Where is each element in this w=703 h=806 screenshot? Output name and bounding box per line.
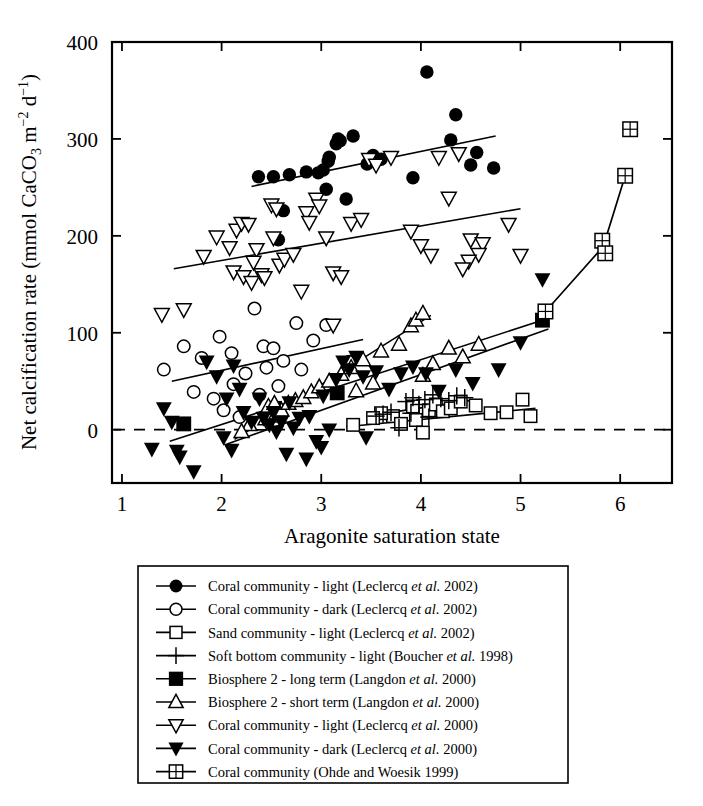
data-point — [334, 271, 349, 285]
legend-marker-open-circle — [170, 603, 182, 615]
legend-marker-open-square — [170, 626, 182, 638]
data-point — [246, 256, 261, 270]
open-circle-marker — [239, 367, 251, 379]
legend-label: Biosphere 2 - short term (Langdon et al.… — [208, 694, 479, 711]
legend-label: Coral community - dark (Leclercq et al. … — [208, 601, 477, 618]
open-circle-marker — [272, 380, 284, 392]
legend-label: Coral community - dark (Leclercq et al. … — [208, 741, 477, 758]
data-point — [154, 309, 169, 323]
open-down-triangle-marker — [455, 263, 470, 277]
data-point — [207, 392, 219, 404]
open-circle-marker — [170, 603, 182, 615]
data-point — [516, 393, 528, 405]
filled-circle-marker — [170, 580, 183, 593]
data-point — [144, 443, 160, 458]
data-point — [535, 273, 551, 288]
figure-container: 1234560100200300400Aragonite saturation … — [0, 0, 703, 806]
data-point — [339, 192, 352, 205]
filled-down-triangle-marker — [298, 453, 314, 468]
open-circle-marker — [260, 361, 272, 373]
open-square-marker — [347, 419, 359, 431]
y-tick-label: 0 — [88, 419, 99, 443]
open-down-triangle-marker — [222, 242, 237, 256]
open-circle-marker — [295, 363, 307, 375]
legend-label: Coral community - light (Leclercq et al.… — [208, 578, 478, 595]
open-square-marker — [516, 393, 528, 405]
data-point — [283, 168, 296, 181]
open-down-triangle-marker — [403, 225, 418, 239]
filled-circle-marker — [444, 133, 457, 146]
open-up-triangle-marker — [349, 383, 364, 397]
data-point — [598, 246, 613, 260]
data-point — [403, 225, 418, 239]
data-point — [449, 108, 462, 121]
data-point — [501, 218, 516, 232]
open-square-marker — [484, 407, 496, 419]
data-point — [217, 404, 229, 416]
data-point — [347, 419, 359, 431]
data-point — [513, 336, 529, 351]
data-point — [187, 386, 199, 398]
data-point — [406, 171, 419, 184]
data-point — [441, 340, 456, 354]
open-down-triangle-marker — [294, 285, 309, 299]
legend-item-3[interactable]: Soft bottom community - light (Boucher e… — [156, 647, 513, 664]
x-tick-label: 5 — [515, 492, 526, 516]
data-point — [358, 431, 374, 446]
data-point — [239, 367, 251, 379]
data-point — [484, 407, 496, 419]
data-point — [451, 148, 466, 162]
filled-circle-marker — [339, 192, 352, 205]
legend-label: Coral community - light (Leclercq et al.… — [208, 717, 478, 734]
filled-down-triangle-marker — [156, 402, 172, 417]
open-down-triangle-marker — [244, 277, 259, 291]
open-down-triangle-marker — [302, 217, 317, 231]
open-up-triangle-marker — [441, 340, 456, 354]
series-connect-line — [545, 176, 625, 312]
data-point — [423, 249, 438, 263]
y-tick-label: 200 — [67, 225, 99, 249]
filled-circle-marker — [449, 108, 462, 121]
data-point — [172, 451, 188, 466]
open-circle-marker — [307, 334, 319, 346]
open-down-triangle-marker — [176, 304, 191, 318]
open-circle-marker — [158, 363, 170, 375]
data-point — [158, 363, 170, 375]
x-tick-label: 2 — [216, 492, 227, 516]
legend-label: Soft bottom community - light (Boucher e… — [208, 648, 513, 665]
data-point — [500, 406, 512, 418]
data-point — [290, 317, 302, 329]
open-down-triangle-marker — [441, 192, 456, 206]
filled-circle-marker — [267, 170, 280, 183]
filled-down-triangle-marker — [381, 383, 397, 398]
open-circle-marker — [217, 404, 229, 416]
filled-circle-marker — [420, 65, 433, 78]
data-point — [538, 304, 553, 319]
data-point — [431, 152, 446, 166]
open-down-triangle-marker — [154, 309, 169, 323]
filled-circle-marker — [252, 170, 265, 183]
filled-square-marker — [169, 672, 183, 686]
filled-circle-marker — [283, 168, 296, 181]
data-point — [464, 158, 477, 171]
data-point — [186, 465, 202, 480]
data-point — [618, 169, 633, 184]
x-tick-label: 4 — [416, 492, 427, 516]
legend-label: Sand community - light (Leclercq et al. … — [208, 625, 475, 642]
open-down-triangle-marker — [513, 249, 528, 263]
open-down-triangle-marker — [451, 148, 466, 162]
data-point — [469, 399, 481, 411]
data-point — [248, 302, 260, 314]
filled-down-triangle-marker — [513, 336, 529, 351]
open-circle-marker — [267, 342, 279, 354]
data-point — [277, 355, 289, 367]
open-up-triangle-marker — [455, 349, 470, 363]
data-point — [267, 170, 280, 183]
data-point — [491, 363, 507, 378]
open-down-triangle-marker — [334, 271, 349, 285]
data-point — [349, 383, 364, 397]
filled-down-triangle-marker — [448, 363, 464, 378]
open-circle-marker — [178, 340, 190, 352]
legend-marker-crossed-square — [169, 765, 182, 778]
data-point — [176, 304, 191, 318]
